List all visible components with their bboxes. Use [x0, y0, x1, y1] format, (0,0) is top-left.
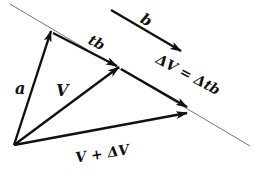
- label-a: a: [15, 79, 25, 98]
- vector-V: [14, 67, 119, 145]
- vector-diagram: b tb a V V + ΔV ΔV = Δtb: [0, 0, 257, 178]
- label-tb: tb: [86, 32, 108, 54]
- vector-V-plus-dV: [14, 113, 187, 145]
- label-dV-eq: ΔV = Δtb: [153, 50, 224, 98]
- vector-tb: [53, 33, 117, 66]
- label-V: V: [56, 81, 70, 100]
- label-V-plus-dV: V + ΔV: [74, 141, 132, 166]
